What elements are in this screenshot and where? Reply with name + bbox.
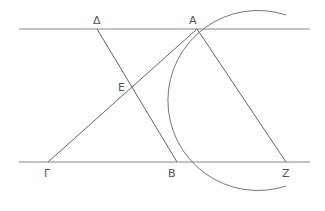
segment-delta-b	[97, 29, 177, 162]
segment-a-z	[197, 29, 286, 162]
circle-arc	[168, 10, 286, 190]
label-delta: Δ	[93, 14, 101, 27]
label-b: B	[168, 167, 176, 180]
label-gamma: Γ	[44, 167, 51, 180]
label-e: E	[118, 81, 125, 94]
geometry-diagram: Δ A E Γ B Z	[0, 0, 325, 211]
label-a: A	[189, 14, 197, 27]
segment-gamma-a	[48, 29, 197, 162]
label-z: Z	[282, 167, 290, 180]
